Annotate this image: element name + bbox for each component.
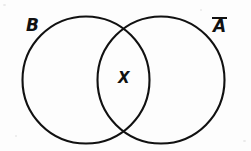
- set-label-b: B: [26, 17, 39, 34]
- venn-diagram-figure: B A X: [0, 0, 251, 151]
- set-circle-right: [98, 17, 225, 144]
- set-circle-left: [23, 17, 150, 144]
- overbar-wrapper: A: [213, 17, 226, 35]
- set-label-a-letter: A: [213, 16, 226, 36]
- region-label-intersection: X: [118, 71, 130, 86]
- overbar-icon: [212, 17, 227, 19]
- set-label-a-complement: A: [213, 17, 226, 35]
